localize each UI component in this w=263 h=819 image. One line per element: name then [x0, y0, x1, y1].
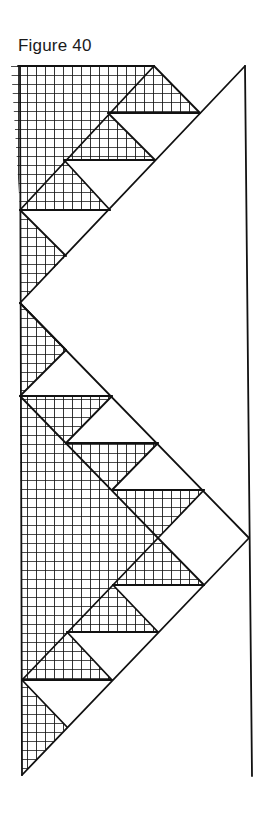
hatched-region [22, 680, 67, 775]
hatched-region [20, 210, 66, 303]
hatched-region [20, 396, 158, 680]
hatched-regions [11, 66, 204, 775]
zigzag-hatched-diagram [0, 0, 263, 819]
hatched-region [20, 303, 66, 396]
outline-segment [245, 66, 252, 776]
